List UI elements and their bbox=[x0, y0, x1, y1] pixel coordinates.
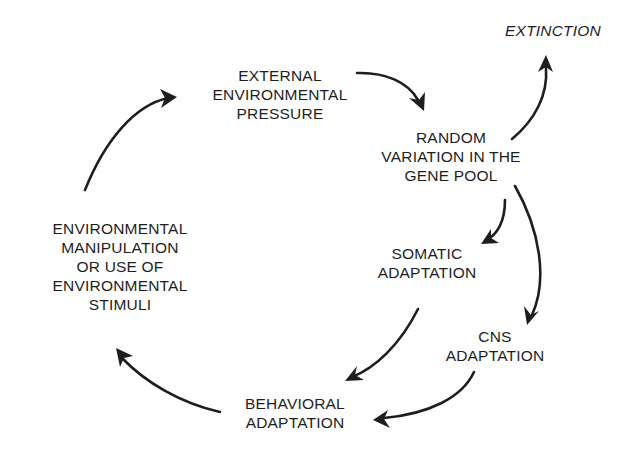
node-text-line: EXTERNAL bbox=[205, 66, 355, 85]
node-text-line: SOMATIC bbox=[362, 244, 492, 263]
node-text-line: ADAPTATION bbox=[362, 263, 492, 282]
arrow-variation-to-somatic bbox=[481, 200, 505, 244]
node-environmental-manipulation: ENVIRONMENTAL MANIPULATION OR USE OF ENV… bbox=[30, 219, 210, 314]
node-text-line: ADAPTATION bbox=[225, 413, 365, 432]
node-text-line: ADAPTATION bbox=[430, 346, 560, 365]
node-random-variation: RANDOM VARIATION IN THE GENE POOL bbox=[367, 128, 535, 185]
node-text-line: STIMULI bbox=[30, 295, 210, 314]
node-behavioral-adaptation: BEHAVIORAL ADAPTATION bbox=[225, 394, 365, 432]
node-external-pressure: EXTERNAL ENVIRONMENTAL PRESSURE bbox=[205, 66, 355, 123]
node-text-line: PRESSURE bbox=[205, 104, 355, 123]
node-text-line: ENVIRONMENTAL bbox=[30, 276, 210, 295]
node-text-line: CNS bbox=[430, 327, 560, 346]
arrow-pressure-to-variation bbox=[357, 73, 425, 111]
node-text-line: ENVIRONMENTAL bbox=[205, 85, 355, 104]
node-text-line: VARIATION IN THE bbox=[367, 147, 535, 166]
node-text-line: OR USE OF bbox=[30, 257, 210, 276]
node-text-line: ENVIRONMENTAL bbox=[30, 219, 210, 238]
node-extinction: EXTINCTION bbox=[478, 21, 628, 40]
arrow-variation-to-extinction bbox=[512, 55, 553, 139]
evolution-cycle-diagram: EXTERNAL ENVIRONMENTAL PRESSURE EXTINCTI… bbox=[0, 0, 640, 449]
arrow-cns-to-behavioral bbox=[373, 372, 474, 428]
node-text-line: RANDOM bbox=[367, 128, 535, 147]
node-somatic-adaptation: SOMATIC ADAPTATION bbox=[362, 244, 492, 282]
node-text-line: BEHAVIORAL bbox=[225, 394, 365, 413]
node-text-line: GENE POOL bbox=[367, 166, 535, 185]
arrow-somatic-to-behavioral bbox=[345, 309, 418, 381]
node-text-line: MANIPULATION bbox=[30, 238, 210, 257]
node-text-line: EXTINCTION bbox=[478, 21, 628, 40]
node-cns-adaptation: CNS ADAPTATION bbox=[430, 327, 560, 365]
arrow-variation-to-cns bbox=[515, 186, 540, 325]
arrow-behavioral-to-manipulation bbox=[116, 348, 220, 412]
arrow-manipulation-to-pressure bbox=[85, 89, 177, 190]
